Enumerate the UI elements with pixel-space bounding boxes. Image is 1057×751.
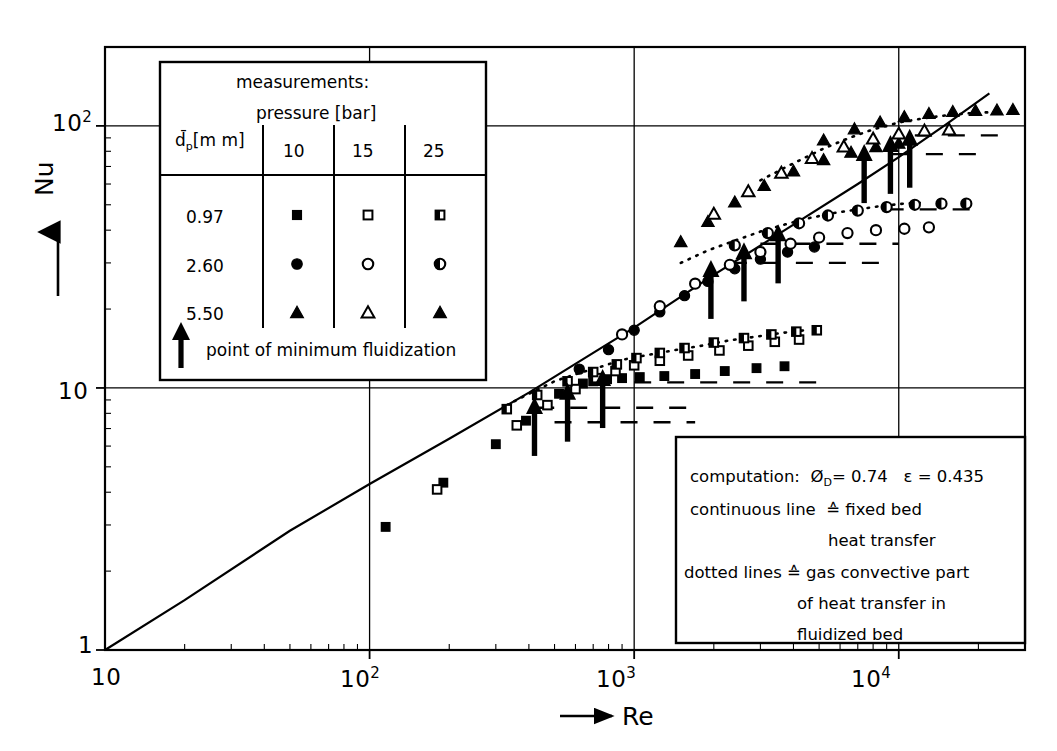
marker-open-triangle <box>708 208 720 219</box>
marker-open-circle <box>871 225 881 235</box>
marker-filled-circle <box>603 345 613 355</box>
arrow-head <box>702 260 719 277</box>
marker-open-circle <box>899 224 909 234</box>
note-line-2: continuous line ≙ fixed bed <box>690 500 922 519</box>
marker-open-circle <box>785 239 795 249</box>
marker-open-circle <box>924 222 934 232</box>
legend-col-15: 15 <box>352 141 374 161</box>
marker-open-circle <box>363 259 373 269</box>
legend-dp-0: 0.97 <box>186 207 224 227</box>
marker-half-square-fill <box>767 330 771 339</box>
marker-open-triangle <box>893 128 905 139</box>
marker-filled-triangle <box>947 105 959 116</box>
legend-marker-cell <box>363 259 373 269</box>
marker-half-square-fill <box>436 211 440 220</box>
marker-filled-triangle <box>991 104 1003 115</box>
marker-half-square-fill <box>740 334 744 343</box>
marker-filled-triangle <box>898 111 910 122</box>
marker-filled-square <box>522 416 531 425</box>
marker-open-circle <box>690 279 700 289</box>
marker-half-square-fill <box>680 344 684 353</box>
y-tick-100: 102 <box>52 108 92 136</box>
legend-subtitle: pressure [bar] <box>256 103 376 123</box>
marker-open-square <box>543 401 552 410</box>
note-line-4: dotted lines ≙ gas convective part <box>684 563 969 582</box>
marker-filled-triangle <box>848 123 860 134</box>
legend-col-25: 25 <box>423 141 445 161</box>
marker-open-square <box>513 421 522 430</box>
min-fluidization-arrow <box>856 144 873 203</box>
marker-half-square-fill <box>813 326 817 335</box>
marker-half-square-fill <box>632 354 636 363</box>
marker-filled-triangle <box>874 116 886 127</box>
marker-filled-triangle <box>675 236 687 247</box>
legend-dp-2: 5.50 <box>186 304 224 324</box>
y-tick-10: 10 <box>58 378 88 404</box>
note-line-3: heat transfer <box>828 531 936 550</box>
x-axis-label: Re <box>622 702 654 731</box>
marker-open-circle <box>655 301 665 311</box>
marker-open-triangle <box>742 185 754 196</box>
marker-filled-square <box>691 370 700 379</box>
marker-filled-square <box>752 364 761 373</box>
marker-open-circle <box>617 329 627 339</box>
marker-filled-circle <box>292 259 302 269</box>
legend-marker-cell <box>364 211 373 220</box>
marker-filled-triangle <box>923 107 935 118</box>
series-group <box>574 242 819 374</box>
legend-dp-1: 2.60 <box>186 256 224 276</box>
min-fluidization-arrow <box>526 397 543 456</box>
marker-filled-square <box>293 211 302 220</box>
marker-filled-triangle <box>817 134 829 145</box>
marker-open-circle <box>814 232 824 242</box>
legend-col-10: 10 <box>283 141 305 161</box>
legend-marker-cell <box>293 211 302 220</box>
marker-filled-square <box>720 367 729 376</box>
marker-filled-circle <box>629 325 639 335</box>
legend-marker-cell <box>435 259 445 269</box>
marker-half-square-fill <box>710 338 714 347</box>
marker-filled-circle <box>574 364 584 374</box>
min-fluidization-arrow <box>702 260 719 319</box>
marker-filled-triangle <box>1007 103 1019 114</box>
marker-half-square-fill <box>792 327 796 336</box>
marker-open-circle <box>725 260 735 270</box>
marker-open-square <box>364 211 373 220</box>
marker-open-square <box>433 485 442 494</box>
legend-footnote: point of minimum fluidization <box>206 340 456 360</box>
x-tick-1000: 103 <box>596 664 636 692</box>
marker-filled-square <box>660 372 669 381</box>
legend-title: measurements: <box>236 72 369 92</box>
marker-open-circle <box>842 228 852 238</box>
marker-filled-square <box>381 523 390 532</box>
marker-half-square-fill <box>656 349 660 358</box>
legend-row-header: d̄p[m m] <box>175 130 245 153</box>
note-line-6: fluidized bed <box>797 625 903 644</box>
y-axis-label: Nu <box>30 161 59 196</box>
marker-filled-square <box>636 373 645 382</box>
legend-marker-cell <box>292 259 302 269</box>
note-line-1: computation: ØD= 0.74 ε = 0.435 <box>690 467 984 489</box>
marker-open-triangle <box>838 141 850 152</box>
marker-open-circle <box>755 247 765 257</box>
marker-open-triangle <box>867 133 879 144</box>
marker-half-square-fill <box>503 405 507 414</box>
y-tick-1: 1 <box>78 632 93 658</box>
marker-filled-square <box>492 440 501 449</box>
x-tick-10000: 104 <box>851 664 891 692</box>
x-tick-100: 102 <box>340 664 380 692</box>
series-group <box>817 103 1019 144</box>
marker-filled-circle <box>679 291 689 301</box>
marker-half-square-fill <box>589 368 593 377</box>
marker-half-square-fill <box>533 391 537 400</box>
marker-half-square-fill <box>613 360 617 369</box>
marker-filled-square <box>780 362 789 371</box>
marker-filled-triangle <box>787 165 799 176</box>
note-line-5: of heat transfer in <box>797 594 946 613</box>
arrow-head <box>856 144 873 161</box>
marker-filled-triangle <box>729 196 741 207</box>
x-tick-10: 10 <box>91 664 121 690</box>
legend-marker-cell <box>436 211 445 220</box>
figure-root: 102 10 1 10 102 103 104 Nu Re measuremen… <box>0 0 1057 751</box>
